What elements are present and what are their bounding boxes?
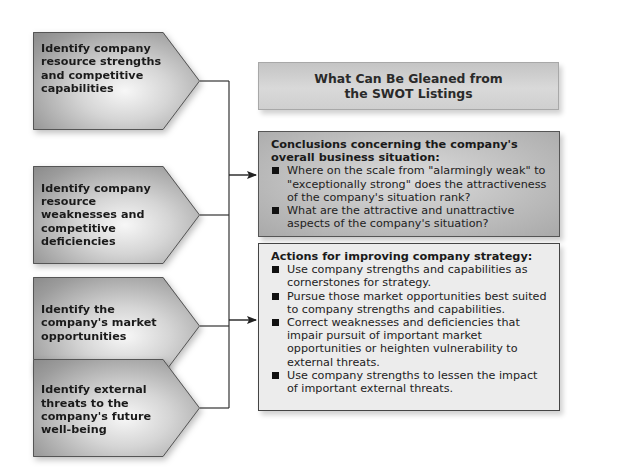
input-label: Identify company resource weaknesses and… — [41, 166, 171, 264]
list-item-text: Pursue those market opportunities best s… — [287, 290, 547, 316]
list-item-text: Use company strengths to lessen the impa… — [287, 369, 537, 395]
input-threats: Identify external threats to the company… — [33, 359, 200, 457]
list-item: What are the attractive and unattractive… — [271, 204, 549, 230]
input-label: Identify external threats to the company… — [41, 359, 171, 457]
conclusions-box: Conclusions concerning the company's ove… — [258, 131, 560, 237]
list-item: Pursue those market opportunities best s… — [271, 290, 549, 316]
square-bullet-icon — [272, 293, 279, 300]
conclusions-heading: Conclusions concerning the company's ove… — [271, 138, 549, 164]
actions-heading: Actions for improving company strategy: — [271, 250, 549, 263]
list-item: Use company strengths and capabilities a… — [271, 263, 549, 289]
input-strengths: Identify company resource strengths and … — [33, 32, 200, 130]
actions-list: Use company strengths and capabilities a… — [271, 263, 549, 395]
diagram-title-box: What Can Be Gleaned from the SWOT Listin… — [258, 62, 559, 110]
list-item-text: Correct weaknesses and deficiencies that… — [287, 316, 520, 369]
list-item: Use company strengths to lessen the impa… — [271, 369, 549, 395]
conclusions-list: Where on the scale from "alarmingly weak… — [271, 164, 549, 230]
square-bullet-icon — [272, 167, 279, 174]
list-item-text: Where on the scale from "alarmingly weak… — [287, 164, 546, 203]
actions-box: Actions for improving company strategy: … — [258, 243, 560, 411]
square-bullet-icon — [272, 266, 279, 273]
input-label: Identify company resource strengths and … — [41, 32, 171, 130]
list-item-text: What are the attractive and unattractive… — [287, 204, 514, 230]
list-item: Where on the scale from "alarmingly weak… — [271, 164, 549, 204]
square-bullet-icon — [272, 372, 279, 379]
input-weaknesses: Identify company resource weaknesses and… — [33, 166, 200, 264]
list-item: Correct weaknesses and deficiencies that… — [271, 316, 549, 369]
list-item-text: Use company strengths and capabilities a… — [287, 263, 528, 289]
diagram-title: What Can Be Gleaned from the SWOT Listin… — [304, 71, 514, 101]
square-bullet-icon — [272, 319, 279, 326]
square-bullet-icon — [272, 207, 279, 214]
